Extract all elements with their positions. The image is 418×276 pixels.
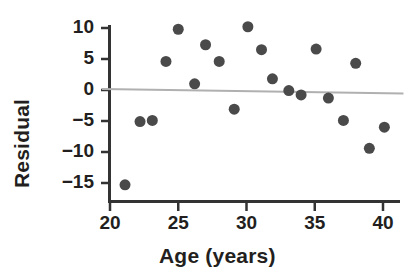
x-tick-label: 25 (158, 212, 198, 234)
scatter-point (214, 56, 225, 67)
scatter-point (311, 44, 322, 55)
scatter-point (160, 56, 171, 67)
y-tick-label: −15 (48, 171, 94, 193)
x-tick-label: 40 (363, 212, 403, 234)
scatter-point (323, 93, 334, 104)
scatter-point (296, 89, 307, 100)
scatter-point (267, 73, 278, 84)
zero-trend-line (102, 89, 404, 93)
y-tick-label: 10 (48, 16, 94, 38)
x-tick-label: 20 (90, 212, 130, 234)
scatter-point (229, 104, 240, 115)
scatter-point (189, 78, 200, 89)
scatter-point (364, 143, 375, 154)
y-tick-label: −5 (48, 109, 94, 131)
scatter-point (338, 115, 349, 126)
scatter-point (256, 44, 267, 55)
axes-spines (108, 25, 400, 203)
y-axis-title: Residual (10, 99, 34, 188)
scatter-point (350, 58, 361, 69)
x-tick-label: 35 (295, 212, 335, 234)
scatter-point (120, 179, 131, 190)
plot-canvas (0, 0, 418, 276)
data-points (120, 21, 390, 190)
x-tick-label: 30 (227, 212, 267, 234)
y-tick-label: −10 (48, 140, 94, 162)
scatter-point (242, 21, 253, 32)
x-axis-title: Age (years) (159, 244, 276, 268)
scatter-point (173, 24, 184, 35)
scatter-point (135, 116, 146, 127)
y-tick-label: 5 (48, 47, 94, 69)
residual-scatter-figure: 1050−5−10−15 2025303540 Residual Age (ye… (0, 0, 418, 276)
scatter-point (147, 115, 158, 126)
scatter-point (283, 85, 294, 96)
scatter-point (200, 39, 211, 50)
scatter-point (379, 122, 390, 133)
zero-reference-line (102, 89, 404, 93)
y-tick-label: 0 (48, 78, 94, 100)
